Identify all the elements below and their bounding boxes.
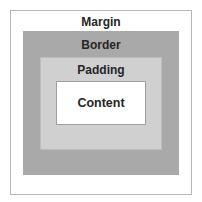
border-label: Border (0, 38, 202, 52)
padding-label: Padding (0, 63, 202, 77)
content-label: Content (0, 96, 202, 110)
margin-label: Margin (0, 15, 202, 29)
